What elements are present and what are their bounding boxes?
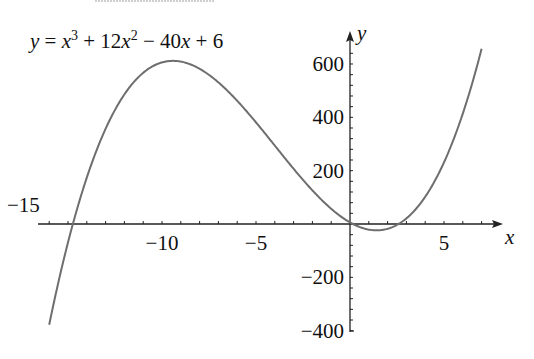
function-curve [49,49,481,325]
y-tick-label: −400 [301,319,344,343]
x-annotation: −15 [7,193,40,217]
x-axis-label: x [504,225,515,249]
y-tick-label: 200 [313,159,345,183]
chart-title: y = x3 + 12x2 − 40x + 6 [28,28,223,53]
x-tick-label: −10 [146,231,179,255]
y-tick-label: −200 [301,265,344,289]
y-axis-label: y [355,21,367,45]
axes [38,31,503,332]
y-tick-label: 400 [313,105,345,129]
tick-labels: −10−55600400200−200−400 [146,52,450,343]
chart: −10−55600400200−200−400 y = x3 + 12x2 − … [0,0,534,359]
y-tick-label: 600 [313,52,345,76]
x-tick-label: −5 [245,231,267,255]
x-tick-label: 5 [439,231,450,255]
